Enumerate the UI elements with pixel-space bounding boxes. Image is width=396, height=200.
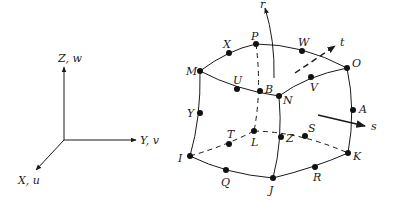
node-i <box>187 153 193 159</box>
edge-bottom-right <box>273 153 348 178</box>
edge-bottom-front <box>190 156 273 178</box>
label-s: S <box>308 122 316 135</box>
s-axis-label: s <box>371 120 377 133</box>
node-r <box>312 164 318 170</box>
z-axis-label: Z, w <box>57 52 82 65</box>
node-z <box>278 134 284 140</box>
label-b: B <box>264 83 273 96</box>
r-axis-arrow <box>265 8 274 78</box>
r-axis-label: r <box>260 0 266 11</box>
node-n <box>276 93 282 99</box>
label-v: V <box>310 81 319 94</box>
label-w: W <box>298 36 311 49</box>
s-axis-arrow <box>318 115 365 126</box>
isoparametric-element-diagram: Z, w Y, v X, u r t s <box>0 0 396 200</box>
label-l: L <box>250 136 258 149</box>
t-axis-label: t <box>340 36 345 49</box>
global-axes: Z, w Y, v X, u <box>17 52 160 187</box>
element-edges <box>190 44 352 178</box>
node-a <box>350 107 356 113</box>
node-q <box>223 167 229 173</box>
label-u: U <box>233 74 243 87</box>
node-y <box>197 110 203 116</box>
label-x: X <box>222 38 232 51</box>
label-k: K <box>352 150 362 163</box>
label-z: Z <box>285 132 294 145</box>
label-o: O <box>352 57 361 70</box>
edge-hidden-bottom-back <box>254 131 348 153</box>
node-o <box>344 65 350 71</box>
label-i: I <box>177 152 183 165</box>
label-n: N <box>282 94 293 107</box>
node-m <box>197 68 203 74</box>
label-m: M <box>185 65 198 78</box>
label-r: R <box>312 171 321 184</box>
y-axis-label: Y, v <box>140 134 160 147</box>
node-b <box>257 88 263 94</box>
node-v <box>308 74 314 80</box>
node-j <box>270 175 276 181</box>
node-labels: M X P W O U B N V Y A I Q J R K T L Z S <box>177 30 367 197</box>
node-k <box>345 150 351 156</box>
node-t <box>226 141 232 147</box>
node-l <box>251 128 257 134</box>
label-q: Q <box>221 176 230 189</box>
edge-hidden-bottom-left <box>190 131 254 156</box>
x-axis-label: X, u <box>17 174 40 187</box>
edge-hidden-vertical <box>254 44 259 131</box>
label-j: J <box>267 184 274 197</box>
hidden-edges <box>190 44 348 156</box>
label-t: T <box>227 128 236 141</box>
label-y: Y <box>187 107 196 120</box>
label-a: A <box>358 103 367 116</box>
label-p: P <box>250 30 259 43</box>
x-axis-arrow <box>36 140 64 170</box>
